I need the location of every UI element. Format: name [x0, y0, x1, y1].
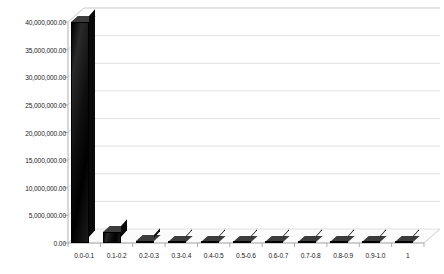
bar-side-face [89, 9, 95, 237]
bar-column [395, 242, 413, 243]
y-axis-tick-label: 25,000,000.00 [0, 101, 66, 108]
bar-front-face [265, 241, 283, 243]
bar-front-face [103, 232, 121, 243]
bar-front-face [168, 241, 186, 243]
x-axis-tick-label: 0.2-0.3 [139, 252, 159, 259]
bar-front-face [201, 241, 219, 243]
y-axis-tick-label: 30,000,000.00 [0, 74, 66, 81]
bar-column [265, 242, 283, 243]
bar-column [103, 232, 121, 243]
y-axis-tick-label: 20,000,000.00 [0, 129, 66, 136]
bar-column [71, 22, 89, 243]
bar-front-face [233, 241, 251, 243]
x-axis-tick-label: 0.5-0.6 [236, 252, 256, 259]
x-axis-tick-label: 0.4-0.5 [204, 252, 224, 259]
x-axis-tick-label: 0.3-0.4 [171, 252, 191, 259]
bar-column [201, 242, 219, 243]
bar-front-face [362, 241, 380, 243]
y-axis-tick-label: 40,000,000.00 [0, 19, 66, 26]
x-axis-tick-label: 1 [406, 252, 410, 259]
bar-column [330, 242, 348, 243]
y-axis-tick-label: 15,000,000.00 [0, 157, 66, 164]
x-axis-tick-label: 0.8-0.9 [333, 252, 353, 259]
bar-column [233, 242, 251, 243]
y-axis-tick-label: 0.00 [0, 240, 66, 247]
bar-front-face [71, 22, 89, 243]
x-axis-tick-label: 0.6-0.7 [268, 252, 288, 259]
bar-chart: 0.00 5,000,000.00 10,000,000.00 15,000,0… [0, 0, 444, 274]
x-axis-tick-label: 0.1-0.2 [107, 252, 127, 259]
bar-column [362, 242, 380, 243]
x-axis-tick-label: 0.0-0.1 [74, 252, 94, 259]
bar-front-face [395, 241, 413, 243]
x-axis-tick-label: 0.7-0.8 [301, 252, 321, 259]
bar-front-face [298, 241, 316, 243]
y-axis-tick-label: 10,000,000.00 [0, 184, 66, 191]
y-axis-tick-label: 35,000,000.00 [0, 46, 66, 53]
bar-column [168, 242, 186, 243]
x-axis-tick-label: 0.9-1.0 [366, 252, 386, 259]
bar-column [136, 241, 154, 244]
bar-front-face [136, 241, 154, 244]
bar-front-face [330, 241, 348, 243]
bar-column [298, 242, 316, 243]
y-axis-tick-label: 5,000,000.00 [0, 212, 66, 219]
